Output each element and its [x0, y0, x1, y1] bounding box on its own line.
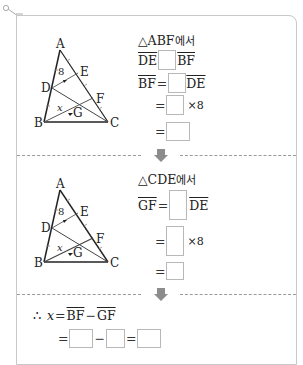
step1-line2: BF = DE [138, 73, 206, 93]
minus-sign: − [94, 331, 104, 346]
vertex-label-d: D [41, 222, 51, 234]
vertex-label-d: D [41, 82, 51, 94]
equals-sign: = [55, 308, 65, 323]
vertex-label-b: B [34, 117, 43, 129]
vertex-label-a: A [56, 178, 65, 190]
vertex-label-e: E [80, 206, 89, 218]
segment-de: DE [138, 53, 157, 68]
step1-heading: △ABF 에서 [138, 32, 195, 48]
answer-box[interactable] [169, 190, 187, 220]
step1-line4: = [154, 122, 190, 141]
equals-sign: = [157, 76, 167, 91]
times-eight: ×8 [187, 235, 203, 248]
vertex-label-g: G [73, 107, 83, 119]
vertex-label-c: C [110, 117, 119, 129]
answer-box[interactable] [106, 329, 125, 348]
answer-box[interactable] [168, 73, 186, 93]
vertex-label-b: B [34, 257, 43, 269]
step2-line3: = [154, 262, 184, 280]
down-arrow-icon [154, 288, 168, 302]
segment-de: DE [189, 198, 208, 213]
dashed-divider [180, 294, 296, 295]
step2-line2: = ×8 [154, 226, 204, 256]
step2-heading: △CDE 에서 [138, 171, 196, 187]
heading-triangle: △CDE [138, 172, 176, 187]
equals-sign: = [126, 331, 136, 346]
segment-de: DE [186, 76, 205, 91]
segment-bf: BF [177, 53, 195, 68]
down-arrow-icon [154, 149, 168, 163]
dashed-divider [17, 294, 141, 295]
vertex-label-e: E [80, 66, 89, 78]
answer-box[interactable] [137, 329, 161, 348]
vertex-label-g: G [73, 247, 83, 259]
step2-line1: GF = DE [138, 190, 208, 220]
times-eight: ×8 [187, 99, 203, 112]
segment-gf: GF [97, 308, 116, 323]
segment-value-de: 8 [58, 67, 64, 77]
heading-suffix: 에서 [175, 32, 195, 48]
therefore-symbol: ∴ [33, 308, 41, 323]
conclusion-line1: ∴ x = BF − GF [33, 308, 116, 323]
heading-triangle: △ABF [138, 33, 175, 48]
equals-sign: = [158, 198, 168, 213]
segment-bf: BF [138, 76, 156, 91]
equals-sign: = [58, 331, 68, 346]
minus-sign: − [85, 308, 95, 323]
segment-value-de: 8 [58, 207, 64, 217]
variable-x: x [47, 308, 54, 323]
answer-box[interactable] [166, 122, 190, 141]
heading-suffix: 에서 [176, 171, 196, 187]
answer-box[interactable] [166, 262, 184, 280]
vertex-label-f: F [96, 233, 104, 245]
dashed-divider [17, 155, 141, 156]
equals-sign: = [155, 234, 165, 249]
vertex-label-a: A [56, 38, 65, 50]
dashed-divider [180, 155, 296, 156]
equals-sign: = [155, 98, 165, 113]
segment-value-x: x [57, 103, 63, 113]
segment-value-x: x [57, 243, 63, 253]
conclusion-line2: = − = [57, 329, 161, 348]
vertex-label-f: F [96, 93, 104, 105]
answer-box[interactable] [158, 50, 176, 70]
segment-gf: GF [138, 198, 157, 213]
answer-box[interactable] [69, 329, 93, 348]
step1-line3: = ×8 [154, 95, 204, 115]
answer-box[interactable] [166, 95, 184, 115]
vertex-label-c: C [110, 257, 119, 269]
step1-line1: DE BF [138, 50, 195, 70]
answer-box[interactable] [166, 226, 184, 256]
equals-sign: = [155, 264, 165, 279]
segment-bf: BF [67, 308, 85, 323]
equals-sign: = [155, 124, 165, 139]
